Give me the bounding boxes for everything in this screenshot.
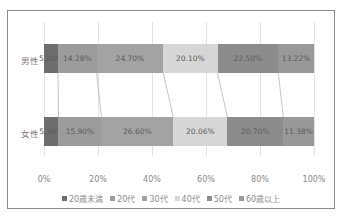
x-tick-label: 100% bbox=[303, 175, 326, 184]
legend: 20歳未満20代30代40代50代60歳以上 bbox=[62, 193, 280, 204]
legend-item: 20代 bbox=[110, 193, 135, 204]
legend-label: 60歳以上 bbox=[246, 195, 280, 204]
data-label: 15.90% bbox=[66, 127, 95, 136]
bar-male: 5.20%14.28%24.70%20.10%22.50%13.22% bbox=[44, 44, 314, 73]
bar-female: 5.36%15.90%26.60%20.06%20.70%11.38% bbox=[44, 117, 314, 146]
data-label: 13.22% bbox=[282, 54, 311, 63]
bar-segment: 20.06% bbox=[173, 117, 227, 146]
bar-segment: 15.90% bbox=[58, 117, 101, 146]
bar-segment: 26.60% bbox=[101, 117, 173, 146]
data-label: 11.38% bbox=[284, 127, 313, 136]
category-label-female: 女性 bbox=[21, 127, 39, 139]
legend-swatch-icon bbox=[239, 196, 244, 201]
bar-segment: 5.20% bbox=[44, 44, 58, 73]
bar-segment: 14.28% bbox=[58, 44, 97, 73]
x-tick-label: 40% bbox=[143, 175, 161, 184]
bar-segment: 5.36% bbox=[44, 117, 58, 146]
data-label: 26.60% bbox=[123, 127, 152, 136]
category-label-male: 男性 bbox=[21, 54, 39, 66]
bar-segment: 13.22% bbox=[278, 44, 314, 73]
legend-swatch-icon bbox=[142, 196, 147, 201]
data-label: 20.06% bbox=[186, 127, 215, 136]
data-label: 20.10% bbox=[176, 54, 205, 63]
legend-label: 30代 bbox=[149, 195, 167, 204]
legend-item: 20歳未満 bbox=[62, 193, 103, 204]
legend-swatch-icon bbox=[175, 196, 180, 201]
legend-label: 20歳未満 bbox=[69, 195, 103, 204]
legend-item: 40代 bbox=[175, 193, 200, 204]
legend-label: 50代 bbox=[214, 195, 232, 204]
data-label: 20.70% bbox=[241, 127, 270, 136]
x-tick-label: 80% bbox=[251, 175, 269, 184]
data-label: 14.28% bbox=[63, 54, 92, 63]
bar-segment: 20.70% bbox=[227, 117, 283, 146]
series-connector-lines bbox=[0, 0, 341, 221]
bar-segment: 24.70% bbox=[97, 44, 164, 73]
legend-label: 40代 bbox=[182, 195, 200, 204]
bar-segment: 11.38% bbox=[283, 117, 314, 146]
legend-swatch-icon bbox=[207, 196, 212, 201]
legend-item: 60歳以上 bbox=[239, 193, 280, 204]
data-label: 22.50% bbox=[234, 54, 263, 63]
legend-item: 50代 bbox=[207, 193, 232, 204]
x-tick-label: 0% bbox=[38, 175, 51, 184]
legend-swatch-icon bbox=[62, 196, 67, 201]
legend-label: 20代 bbox=[117, 195, 135, 204]
legend-swatch-icon bbox=[110, 196, 115, 201]
bar-segment: 22.50% bbox=[218, 44, 279, 73]
x-tick-label: 20% bbox=[89, 175, 107, 184]
legend-item: 30代 bbox=[142, 193, 167, 204]
bar-segment: 20.10% bbox=[163, 44, 217, 73]
x-tick-label: 60% bbox=[197, 175, 215, 184]
data-label: 24.70% bbox=[116, 54, 145, 63]
